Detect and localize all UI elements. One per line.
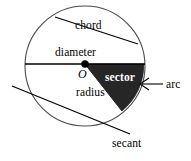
label-center-point: O: [78, 68, 87, 80]
label-diameter: diameter: [55, 47, 96, 59]
circle-diagram: chord diameter O sector radius arc secan…: [0, 0, 191, 161]
label-arc: arc: [166, 79, 180, 91]
label-sector: sector: [105, 72, 135, 84]
label-chord: chord: [75, 20, 102, 32]
label-secant: secant: [112, 138, 141, 150]
label-radius: radius: [76, 87, 105, 99]
